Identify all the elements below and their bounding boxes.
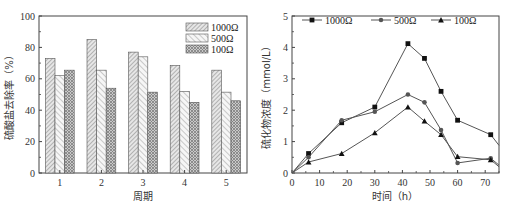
x-tick-label: 70: [480, 177, 490, 188]
bar-100Ω-cycle-2: [106, 88, 116, 173]
line-chart-series: [292, 41, 499, 173]
bar-chart-legend: 1000Ω500Ω100Ω: [186, 22, 238, 55]
square-marker: [455, 118, 460, 123]
circle-marker: [339, 118, 344, 123]
circle-marker: [422, 100, 427, 105]
x-tick-label: 5: [224, 177, 229, 188]
x-tick-label: 20: [342, 177, 352, 188]
figure: 020406080100 12345 周期 硫酸盐去除率（%） 1000Ω500…: [0, 0, 507, 206]
triangle-marker: [339, 151, 345, 156]
circle-marker: [379, 18, 384, 23]
y-tick-label: 2: [283, 105, 288, 116]
legend-swatch: [186, 45, 208, 53]
y-tick-label: 0: [283, 168, 288, 179]
y-tick-label: 80: [25, 42, 35, 53]
bar-1000Ω-cycle-2: [87, 40, 97, 173]
x-tick-label: 60: [453, 177, 463, 188]
series-500Ω: [292, 92, 499, 173]
bar-1000Ω-cycle-5: [212, 70, 222, 173]
line-chart-y-ticks: 012345: [283, 11, 295, 179]
square-marker: [488, 132, 493, 137]
bar-chart-y-label: 硫酸盐去除率（%）: [3, 50, 15, 140]
bar-500Ω-cycle-3: [138, 57, 148, 173]
y-tick-label: 0: [30, 168, 35, 179]
square-marker: [439, 89, 444, 94]
bar-500Ω-cycle-1: [55, 76, 65, 173]
legend-label: 1000Ω: [211, 22, 238, 33]
legend-label: 500Ω: [394, 15, 416, 26]
bar-1000Ω-cycle-4: [170, 65, 180, 173]
bar-100Ω-cycle-3: [148, 92, 158, 173]
bar-500Ω-cycle-2: [97, 70, 107, 173]
line-chart-frame: [292, 16, 499, 173]
bar-chart-bars: [45, 40, 240, 173]
bar-chart-sulfate-removal: 020406080100 12345 周期 硫酸盐去除率（%） 1000Ω500…: [3, 11, 247, 203]
bar-100Ω-cycle-5: [231, 101, 241, 173]
x-tick-label: 50: [425, 177, 435, 188]
square-marker: [406, 41, 411, 46]
y-tick-label: 40: [25, 105, 35, 116]
circle-marker: [373, 109, 378, 114]
legend-swatch: [186, 23, 208, 31]
circle-marker: [439, 128, 444, 133]
x-tick-label: 2: [99, 177, 104, 188]
x-tick-label: 3: [141, 177, 146, 188]
bar-chart-x-label: 周期: [133, 191, 153, 202]
square-marker: [422, 56, 427, 61]
bar-1000Ω-cycle-1: [45, 58, 55, 173]
square-marker: [310, 18, 315, 23]
legend-label: 100Ω: [454, 15, 476, 26]
y-tick-label: 4: [283, 42, 288, 53]
y-tick-label: 3: [283, 73, 288, 84]
circle-marker: [406, 92, 411, 97]
bar-500Ω-cycle-5: [221, 92, 231, 173]
bar-100Ω-cycle-1: [65, 70, 75, 173]
line-chart-y-label: 硫化物浓度（mmol/L）: [260, 41, 272, 148]
bar-500Ω-cycle-4: [180, 91, 190, 173]
legend-label: 1000Ω: [325, 15, 352, 26]
bar-1000Ω-cycle-3: [129, 52, 139, 173]
line-plot-area: [292, 16, 499, 173]
x-tick-label: 4: [182, 177, 187, 188]
series-1000Ω: [292, 41, 499, 173]
circle-marker: [306, 155, 311, 160]
y-tick-label: 60: [25, 73, 35, 84]
x-tick-label: 10: [315, 177, 325, 188]
x-tick-label: 0: [290, 177, 295, 188]
circle-marker: [455, 161, 460, 166]
x-tick-label: 1: [57, 177, 62, 188]
x-tick-label: 40: [397, 177, 407, 188]
y-tick-label: 100: [20, 11, 35, 22]
y-tick-label: 20: [25, 136, 35, 147]
square-marker: [372, 105, 377, 110]
series-100Ω: [292, 104, 499, 173]
bar-100Ω-cycle-4: [189, 102, 199, 173]
line-chart-sulfide-concentration: 012345 010203040506070 时间（h） 硫化物浓度（mmol/…: [260, 11, 499, 203]
y-tick-label: 5: [283, 11, 288, 22]
y-tick-label: 1: [283, 136, 288, 147]
legend-label: 100Ω: [211, 44, 233, 55]
legend-label: 500Ω: [211, 33, 233, 44]
triangle-marker: [405, 104, 411, 109]
line-chart-x-label: 时间（h）: [372, 190, 418, 202]
legend-swatch: [186, 34, 208, 42]
x-tick-label: 30: [370, 177, 380, 188]
